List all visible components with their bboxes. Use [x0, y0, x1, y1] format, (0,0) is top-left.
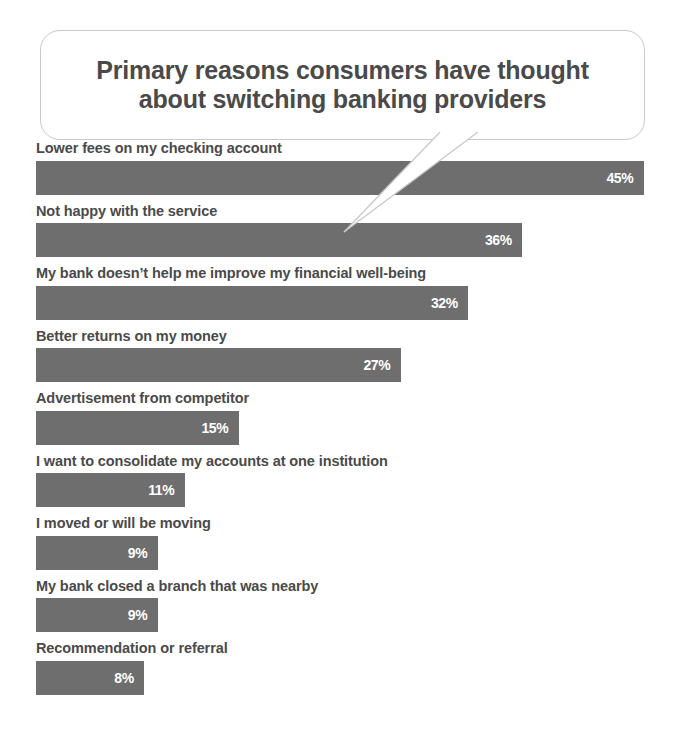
chart-row: I moved or will be moving 9% — [36, 516, 651, 570]
chart-row: My bank closed a branch that was nearby … — [36, 579, 651, 633]
bar-label: Lower fees on my checking account — [36, 141, 651, 161]
bar-track: 36% — [36, 223, 651, 257]
bar-value-label: 27% — [363, 358, 400, 372]
bar-label: Recommendation or referral — [36, 641, 651, 661]
bar-value-label: 11% — [148, 483, 184, 497]
bar-value-label: 15% — [201, 421, 238, 435]
bar-label: I want to consolidate my accounts at one… — [36, 454, 651, 474]
chart-row: My bank doesn’t help me improve my finan… — [36, 266, 651, 320]
bar-label: Better returns on my money — [36, 329, 651, 349]
chart-title: Primary reasons consumers have thought a… — [82, 56, 603, 115]
chart-row: Not happy with the service 36% — [36, 204, 651, 258]
bar[interactable]: 9% — [36, 598, 158, 632]
bar-track: 9% — [36, 536, 651, 570]
bar-value-label: 9% — [128, 546, 158, 560]
title-speech-bubble: Primary reasons consumers have thought a… — [40, 30, 645, 140]
bar-track: 15% — [36, 411, 651, 445]
bar[interactable]: 8% — [36, 661, 144, 695]
bar-track: 8% — [36, 661, 651, 695]
chart-row: Better returns on my money 27% — [36, 329, 651, 383]
bar-track: 45% — [36, 161, 651, 195]
bar[interactable]: 36% — [36, 223, 522, 257]
bar-label: Not happy with the service — [36, 204, 651, 224]
bar[interactable]: 15% — [36, 411, 239, 445]
bar-track: 32% — [36, 286, 651, 320]
chart-row: Advertisement from competitor 15% — [36, 391, 651, 445]
bar-value-label: 8% — [114, 671, 144, 685]
bar[interactable]: 27% — [36, 348, 401, 382]
bar-track: 27% — [36, 348, 651, 382]
bar[interactable]: 32% — [36, 286, 468, 320]
bar-label: Advertisement from competitor — [36, 391, 651, 411]
bar-value-label: 36% — [485, 233, 522, 247]
bar-value-label: 9% — [128, 608, 158, 622]
bar-track: 11% — [36, 473, 651, 507]
bar-track: 9% — [36, 598, 651, 632]
bar[interactable]: 9% — [36, 536, 158, 570]
bar[interactable]: 11% — [36, 473, 185, 507]
chart-row: Lower fees on my checking account 45% — [36, 141, 651, 195]
bar-label: My bank closed a branch that was nearby — [36, 579, 651, 599]
bar-chart: Lower fees on my checking account 45% No… — [36, 141, 651, 704]
bar-label: My bank doesn’t help me improve my finan… — [36, 266, 651, 286]
chart-row: I want to consolidate my accounts at one… — [36, 454, 651, 508]
bar-value-label: 45% — [606, 171, 643, 185]
bar[interactable]: 45% — [36, 161, 644, 195]
bar-label: I moved or will be moving — [36, 516, 651, 536]
chart-row: Recommendation or referral 8% — [36, 641, 651, 695]
bar-value-label: 32% — [431, 296, 468, 310]
